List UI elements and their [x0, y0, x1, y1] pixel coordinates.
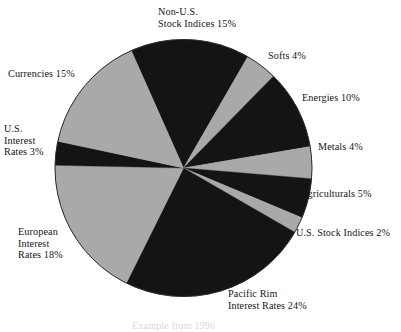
pie-label-energies: Energies 10% — [302, 92, 360, 104]
pie-label-us-interest-rates: U.S. Interest Rates 3% — [4, 123, 44, 158]
pie-label-us-stock-indices: U.S. Stock Indices 2% — [296, 227, 390, 239]
pie-label-agriculturals: Agriculturals 5% — [300, 188, 371, 200]
pie-label-pacific-rim-interest-rates: Pacific Rim Interest Rates 24% — [228, 288, 307, 311]
pie-label-softs: Softs 4% — [268, 50, 306, 62]
pie-label-metals: Metals 4% — [318, 141, 363, 153]
pie-label-currencies: Currencies 15% — [8, 68, 75, 80]
pie-slice-group — [55, 40, 312, 297]
figure-bottom-caption: Example from 1996 — [132, 320, 215, 332]
pie-label-european-interest-rates: European Interest Rates 18% — [18, 226, 63, 261]
pie-label-non-us-stock-indices: Non-U.S. Stock Indices 15% — [158, 6, 236, 29]
